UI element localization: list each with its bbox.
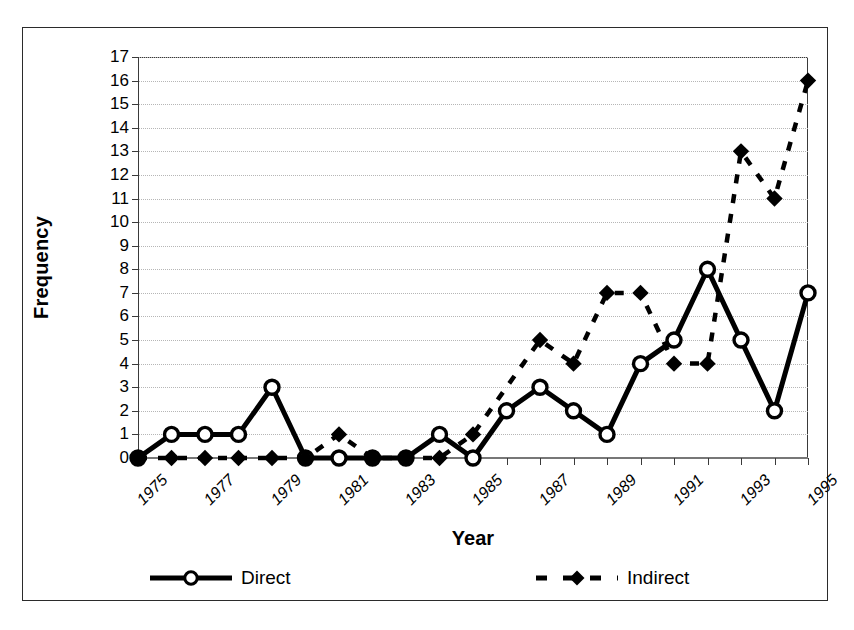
y-tick-label: 6 [120,306,129,326]
series-overlay [138,57,808,458]
y-tick-label: 15 [110,94,129,114]
data-point-direct [500,404,514,418]
y-tick-label: 0 [120,448,129,468]
y-tick-label: 4 [120,354,129,374]
data-point-indirect [666,355,682,371]
data-point-direct [198,427,212,441]
x-tick-label: 1985 [468,471,506,509]
x-tick [808,458,809,465]
data-point-direct [165,427,179,441]
y-tick-label: 11 [111,189,129,209]
data-point-indirect [264,450,280,466]
data-point-indirect [699,355,715,371]
x-tick-label: 1987 [535,471,573,509]
legend-swatch-indirect [534,569,620,587]
x-tick-label: 1995 [803,471,841,509]
x-tick-label: 1983 [401,471,439,509]
x-tick-label: 1989 [602,471,640,509]
chart-legend: Direct Indirect [138,568,808,598]
data-point-direct [466,451,480,465]
y-tick-label: 14 [110,118,129,138]
data-point-direct [332,451,346,465]
y-tick-label: 3 [120,377,129,397]
x-tick [674,458,675,465]
data-point-direct [567,404,581,418]
y-tick-label: 2 [120,401,129,421]
data-point-direct [600,427,614,441]
legend-item-direct: Direct [148,568,291,587]
data-point-direct [667,333,681,347]
legend-swatch-direct [148,569,234,587]
x-tick-label: 1977 [200,471,238,509]
plot-area: 01234567891011121314151617 1975197719791… [138,57,808,458]
x-tick [641,458,642,465]
x-tick-label: 1993 [736,471,774,509]
data-point-direct [433,427,447,441]
legend-label-direct: Direct [241,568,291,587]
y-tick-label: 1 [120,424,129,444]
x-tick [574,458,575,465]
y-tick-label: 10 [110,212,129,232]
legend-item-indirect: Indirect [534,568,689,587]
x-tick [540,458,541,465]
x-tick-label: 1981 [334,471,372,509]
x-tick [708,458,709,465]
y-tick-label: 16 [110,71,129,91]
x-tick [775,458,776,465]
y-axis-title: Frequency [30,168,53,368]
x-tick [741,458,742,465]
y-tick-label: 9 [120,236,129,256]
data-point-indirect [599,285,615,301]
x-tick-label: 1991 [669,471,707,509]
data-point-indirect [632,285,648,301]
y-tick-label: 5 [120,330,129,350]
y-tick-label: 13 [110,141,129,161]
data-point-direct [533,380,547,394]
y-tick-label: 17 [110,47,129,67]
data-point-indirect [163,450,179,466]
data-point-direct [634,357,648,371]
y-tick-label: 12 [110,165,129,185]
x-axis-title: Year [138,527,808,550]
data-point-direct [232,427,246,441]
data-point-indirect [197,450,213,466]
data-point-indirect [230,450,246,466]
data-point-direct [801,286,815,300]
x-tick [607,458,608,465]
data-point-direct [734,333,748,347]
y-tick-label: 7 [120,283,129,303]
data-point-indirect [800,72,816,88]
data-point-direct [701,262,715,276]
chart-figure: Frequency 01234567891011121314151617 197… [22,27,828,601]
x-tick-label: 1979 [267,471,305,509]
x-tick-label: 1975 [133,471,171,509]
legend-label-indirect: Indirect [627,568,689,587]
data-point-direct [768,404,782,418]
y-tick-label: 8 [120,259,129,279]
data-point-direct [265,380,279,394]
x-tick [507,458,508,465]
